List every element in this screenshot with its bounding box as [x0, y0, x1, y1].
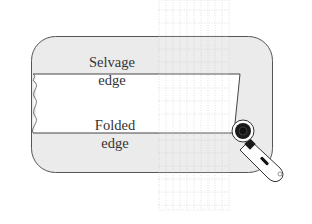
- folded-label-line2: edge: [101, 135, 128, 151]
- selvage-label-line2: edge: [98, 72, 125, 88]
- folded-label-line1: Folded: [95, 117, 136, 133]
- quilting-ruler: [159, 0, 229, 210]
- fabric-cutting-diagram: Selvage edge Folded edge: [0, 0, 312, 224]
- selvage-label-line1: Selvage: [89, 54, 135, 70]
